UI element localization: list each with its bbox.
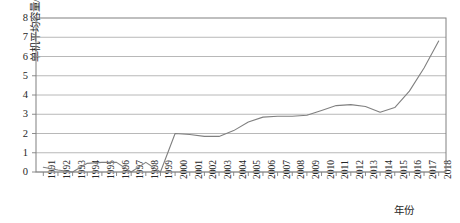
chart-figure: 单机平均容量/MW 012345678 19911992199319941995… — [0, 0, 460, 223]
x-axis-title: 年份 — [394, 205, 414, 217]
plot-area — [0, 0, 460, 223]
